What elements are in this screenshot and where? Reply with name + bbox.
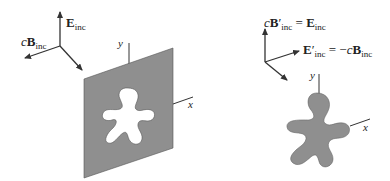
propagation-arrow-right <box>265 62 287 80</box>
right-field-triad: cB′inc = Einc E′inc = −cBinc <box>264 15 372 80</box>
babinet-principle-diagram: Einc cBinc y x cB′inc = Einc E′inc = −cB… <box>0 0 390 181</box>
shape-x-label: x <box>362 121 368 133</box>
propagation-arrow <box>60 46 82 70</box>
opaque-plate-with-aperture <box>84 48 173 178</box>
cb-prime-inc-equals-e-inc-label: cB′inc = Einc <box>264 15 326 32</box>
e-prime-inc-arrow <box>265 51 299 62</box>
e-prime-inc-equals-minus-cb-inc-label: E′inc = −cBinc <box>303 42 372 59</box>
e-inc-label: Einc <box>66 15 86 32</box>
right-complementary-screen: y x <box>287 69 370 167</box>
plate-x-label: x <box>187 98 193 110</box>
complementary-disk-shape <box>287 93 350 167</box>
shape-y-label: y <box>309 69 315 81</box>
plate-y-label: y <box>117 37 123 49</box>
cb-inc-label: cBinc <box>21 34 46 51</box>
left-field-triad: Einc cBinc <box>21 12 86 70</box>
left-screen: y x <box>84 37 193 178</box>
